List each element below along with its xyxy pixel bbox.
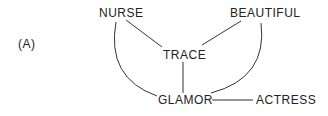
edge-beautiful-glamor: [211, 23, 262, 93]
panel-label: (A): [18, 38, 36, 50]
semantic-network-diagram: (A) NURSE BEAUTIFUL TRACE GLAMOR ACTRESS: [0, 0, 328, 116]
node-beautiful: BEAUTIFUL: [230, 7, 301, 19]
edge-nurse-trace: [126, 20, 162, 47]
node-trace: TRACE: [163, 49, 206, 61]
node-nurse: NURSE: [99, 7, 144, 19]
node-glamor: GLAMOR: [158, 94, 213, 106]
edge-nurse-glamor: [114, 22, 157, 96]
edge-beautiful-trace: [202, 21, 241, 45]
node-actress: ACTRESS: [256, 94, 316, 106]
